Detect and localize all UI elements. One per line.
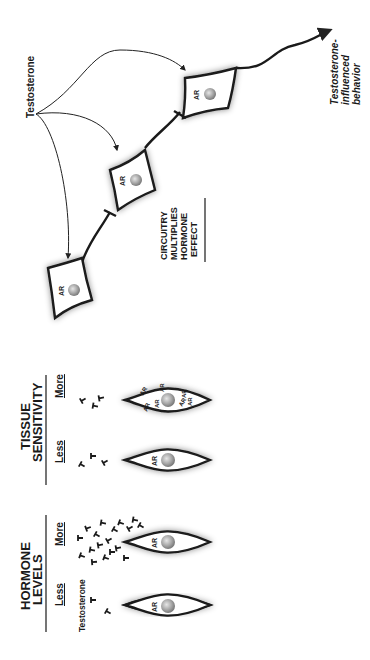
ar-label: AR (193, 90, 200, 100)
axon-2 (145, 112, 180, 148)
hormone-less-label: Less (54, 583, 65, 606)
hormone-more-label: More (54, 522, 65, 546)
testosterone-molecule-label: Testosterone (77, 579, 87, 632)
svg-text:influenced: influenced (340, 54, 351, 105)
svg-text:AR: AR (187, 397, 193, 406)
axon-output (236, 30, 330, 68)
hormone-levels-panel: HORMONE LEVELS Less More Testosterone (18, 515, 210, 632)
svg-text:AR: AR (181, 389, 187, 398)
nucleus (161, 453, 175, 467)
nucleus (68, 284, 80, 296)
nucleus (161, 535, 175, 549)
svg-text:Testosterone-: Testosterone- (329, 39, 340, 105)
nucleus (161, 599, 175, 613)
svg-text:behavior: behavior (351, 62, 362, 105)
svg-text:CIRCUITRY: CIRCUITRY (159, 211, 169, 260)
testosterone-molecules-tissue-more (80, 395, 105, 410)
diagram-canvas: HORMONE LEVELS Less More Testosterone (0, 0, 370, 660)
ar-label: AR (151, 602, 158, 612)
testosterone-molecules-less (91, 597, 112, 616)
tissue-sensitivity-title-2: SENSITIVITY (30, 382, 45, 462)
hormone-arrow-2 (36, 113, 117, 150)
tissue-less-label: Less (54, 440, 65, 463)
testosterone-molecules-tissue-less (79, 453, 109, 469)
testosterone-source-label: Testosterone (25, 56, 36, 118)
hormone-arrow-1 (36, 114, 69, 258)
axon-1 (82, 212, 110, 262)
ar-label: AR (119, 176, 126, 186)
hormone-levels-title-2: LEVELS (30, 554, 45, 605)
ar-label: AR (151, 538, 158, 548)
ar-label: AR (58, 286, 65, 296)
behavior-label: Testosterone- influenced behavior (329, 39, 362, 105)
svg-text:MULTIPLIES: MULTIPLIES (169, 207, 179, 260)
hormone-arrow-3 (36, 50, 185, 114)
circuitry-panel: Testosterone AR AR AR CIRCUITRY MULTIPLI… (25, 30, 362, 318)
tissue-more-label: More (54, 374, 65, 398)
svg-text:EFFECT: EFFECT (189, 221, 199, 257)
nucleus (130, 174, 142, 186)
nucleus (204, 88, 216, 100)
circuitry-caption: CIRCUITRY MULTIPLIES HORMONE EFFECT (159, 207, 199, 260)
svg-text:HORMONE: HORMONE (179, 213, 189, 260)
nucleus (161, 393, 175, 407)
tissue-sensitivity-panel: TISSUE SENSITIVITY Less More AR AR AR (18, 374, 210, 485)
ar-label: AR (151, 456, 158, 466)
svg-text:AR: AR (154, 399, 160, 408)
synapse-1 (104, 210, 116, 216)
svg-text:AR: AR (159, 383, 165, 392)
